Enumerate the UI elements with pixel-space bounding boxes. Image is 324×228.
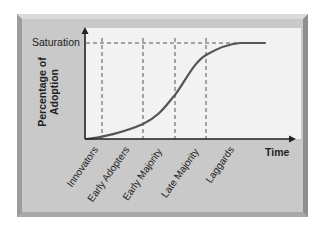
y-axis-label-line2: Adoption xyxy=(48,52,60,132)
y-axis-label: Percentage of Adoption xyxy=(36,52,60,132)
x-axis-label: Time xyxy=(265,146,289,158)
y-axis-label-line1: Percentage of xyxy=(36,52,48,132)
saturation-label: Saturation xyxy=(32,36,80,48)
x-axis-arrow-icon xyxy=(289,136,296,143)
y-axis-arrow-icon xyxy=(82,27,89,34)
